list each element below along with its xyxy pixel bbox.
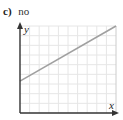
x-axis-label: x xyxy=(108,99,114,111)
grid xyxy=(20,26,116,113)
y-axis-label: y xyxy=(23,23,29,35)
chart: y x xyxy=(0,0,123,120)
